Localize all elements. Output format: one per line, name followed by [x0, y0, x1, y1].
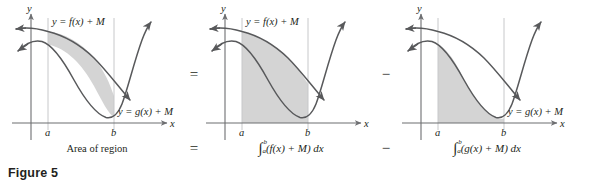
tick-label-a: a [435, 127, 440, 138]
curve-g-label: y = g(x) + M [117, 106, 174, 118]
operator-minus-top: − [374, 66, 398, 83]
panel-1-caption-row: Area of region [2, 138, 192, 156]
tick-label-b: b [305, 127, 310, 138]
panel-1-svg: y x a b y = f(x) + M y = g(x) + M [2, 0, 192, 160]
x-axis-label: x [169, 118, 175, 129]
integral-upper-limit-f: b [263, 139, 267, 146]
shaded-region-between-curves [48, 32, 114, 118]
panel-3-caption-row: ∫ba(g(x) + M) dx [392, 138, 582, 156]
x-axis-label: x [559, 118, 565, 129]
y-axis-label: y [220, 3, 226, 14]
curve-f-left-arrow [406, 28, 416, 29]
integral-upper-limit-g: b [458, 139, 462, 146]
tick-label-a: a [45, 127, 50, 138]
integrand-g: (g(x) + M) dx [461, 142, 521, 154]
panel-2-caption-row: ∫ba(f(x) + M) dx [196, 138, 386, 156]
curve-g-left-arrow [212, 44, 222, 51]
curve-f-label: y = f(x) + M [51, 16, 106, 28]
curve-g-left-arrow [408, 44, 418, 51]
tick-label-b: b [501, 127, 506, 138]
integrand-f: (f(x) + M) dx [266, 142, 324, 154]
integral-lower-limit-f: a [262, 148, 266, 155]
tick-label-a: a [239, 127, 244, 138]
integral-expression-f: ∫ba(f(x) + M) dx [258, 142, 323, 154]
integral-expression-g: ∫ba(g(x) + M) dx [453, 142, 521, 154]
figure-5-root: y x a b y = f(x) + M y = g(x) + M [0, 0, 592, 190]
panel-area-between-curves: y x a b y = f(x) + M y = g(x) + M [2, 0, 192, 160]
curve-g-left-arrow [18, 44, 28, 51]
panel-3-svg: y x a b y = g(x) + M [392, 0, 582, 160]
curve-f-left-arrow [210, 28, 220, 29]
curve-f [16, 28, 130, 100]
operator-equals-top: = [182, 66, 206, 83]
panel-2-svg: y x a b y = f(x) + M [196, 0, 386, 160]
tick-label-b: b [111, 127, 116, 138]
curve-f-label: y = f(x) + M [245, 16, 300, 28]
y-axis-label: y [416, 3, 422, 14]
figure-caption: Figure 5 [8, 166, 58, 180]
integral-lower-limit-g: a [457, 148, 461, 155]
area-of-region-caption: Area of region [66, 143, 127, 154]
curve-g-label: y = g(x) + M [507, 106, 564, 118]
curve-f-left-arrow [16, 28, 26, 29]
x-axis-label: x [363, 118, 369, 129]
y-axis-label: y [26, 3, 32, 14]
panel-integral-of-g: y x a b y = g(x) + M [392, 0, 582, 160]
shaded-region-under-g [438, 45, 504, 124]
shaded-region-under-f [242, 32, 308, 124]
panel-integral-of-f: y x a b y = f(x) + M [196, 0, 386, 160]
